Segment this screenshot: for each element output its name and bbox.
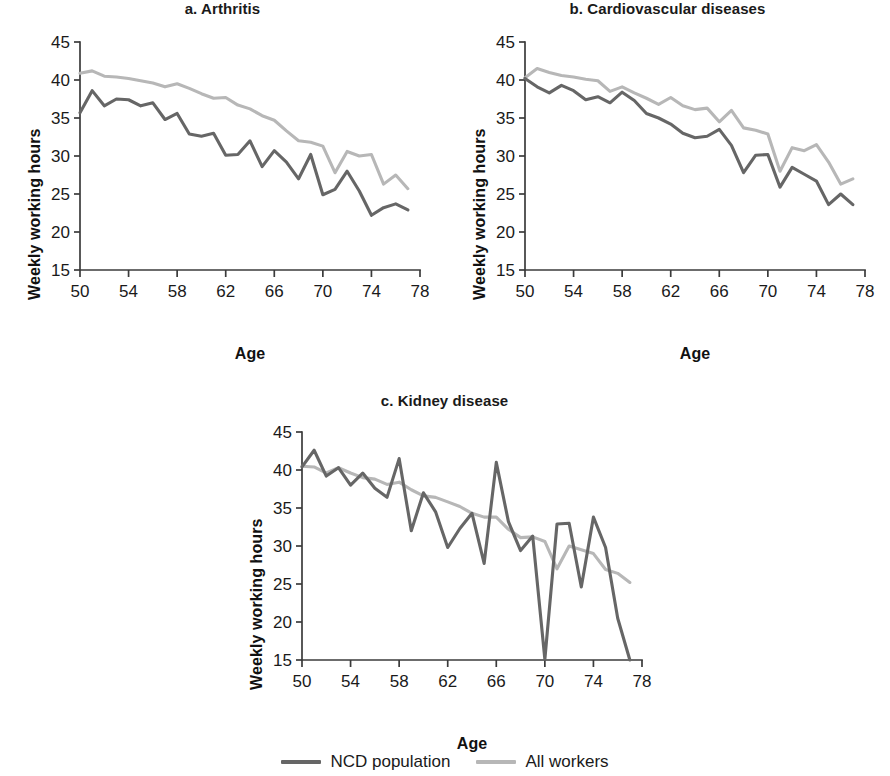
x-tick-label: 62: [661, 282, 680, 301]
x-tick-label: 54: [119, 282, 138, 301]
x-tick-label: 78: [633, 672, 652, 691]
series-line-ncd-population: [302, 450, 630, 660]
panel-b-title: b. Cardiovascular diseases: [445, 0, 890, 17]
x-tick-label: 70: [313, 282, 332, 301]
panel-cardiovascular-diseases: b. Cardiovascular diseases Weekly workin…: [445, 0, 890, 380]
x-tick-label: 50: [293, 672, 312, 691]
panel-c-plot-area: 152025303540455054586266707478: [260, 418, 660, 718]
x-tick-label: 58: [390, 672, 409, 691]
y-tick-label: 25: [273, 575, 292, 594]
panel-b-plot-area: 152025303540455054586266707478: [483, 28, 883, 328]
x-tick-label: 54: [341, 672, 360, 691]
legend-line-swatch-ncd-icon: [281, 760, 321, 764]
panel-a-title: a. Arthritis: [0, 0, 445, 17]
x-tick-label: 58: [613, 282, 632, 301]
y-tick-label: 40: [496, 71, 515, 90]
y-tick-label: 30: [496, 147, 515, 166]
legend-label-all-workers: All workers: [525, 752, 608, 772]
figure-legend: NCD population All workers: [0, 752, 890, 772]
x-tick-label: 70: [758, 282, 777, 301]
y-tick-label: 20: [496, 223, 515, 242]
x-tick-label: 78: [856, 282, 875, 301]
y-tick-label: 45: [51, 33, 70, 52]
y-tick-label: 45: [273, 423, 292, 442]
panel-b-x-axis-label: Age: [525, 345, 865, 363]
x-tick-label: 74: [807, 282, 826, 301]
x-tick-label: 58: [168, 282, 187, 301]
y-tick-label: 15: [496, 261, 515, 280]
y-tick-label: 25: [51, 185, 70, 204]
y-tick-label: 40: [51, 71, 70, 90]
y-tick-label: 40: [273, 461, 292, 480]
legend-label-ncd-population: NCD population: [330, 752, 450, 772]
y-tick-label: 15: [273, 651, 292, 670]
y-tick-label: 25: [496, 185, 515, 204]
x-tick-label: 50: [516, 282, 535, 301]
x-tick-label: 70: [535, 672, 554, 691]
legend-item-ncd-population: NCD population: [281, 752, 450, 772]
y-tick-label: 15: [51, 261, 70, 280]
y-tick-label: 35: [496, 109, 515, 128]
series-line-ncd-population: [80, 91, 408, 216]
y-tick-label: 35: [51, 109, 70, 128]
x-tick-label: 50: [71, 282, 90, 301]
x-tick-label: 66: [487, 672, 506, 691]
y-tick-label: 30: [51, 147, 70, 166]
x-tick-label: 62: [216, 282, 235, 301]
series-line-all-workers: [80, 71, 408, 189]
x-tick-label: 66: [710, 282, 729, 301]
x-tick-label: 62: [438, 672, 457, 691]
x-tick-label: 54: [564, 282, 583, 301]
panel-arthritis: a. Arthritis Weekly working hours 152025…: [0, 0, 445, 380]
y-tick-label: 20: [51, 223, 70, 242]
panel-c-title: c. Kidney disease: [222, 392, 667, 409]
panel-c-x-axis-label: Age: [302, 735, 642, 753]
series-line-all-workers: [525, 69, 853, 185]
x-tick-label: 74: [362, 282, 381, 301]
legend-item-all-workers: All workers: [476, 752, 608, 772]
y-tick-label: 30: [273, 537, 292, 556]
x-tick-label: 78: [411, 282, 430, 301]
panel-a-x-axis-label: Age: [80, 345, 420, 363]
panel-kidney-disease: c. Kidney disease Weekly working hours 1…: [222, 392, 667, 737]
y-tick-label: 35: [273, 499, 292, 518]
x-tick-label: 74: [584, 672, 603, 691]
legend-line-swatch-all-icon: [476, 760, 516, 764]
panel-a-plot-area: 152025303540455054586266707478: [38, 28, 438, 328]
y-tick-label: 20: [273, 613, 292, 632]
y-tick-label: 45: [496, 33, 515, 52]
series-line-ncd-population: [525, 78, 853, 204]
x-tick-label: 66: [265, 282, 284, 301]
